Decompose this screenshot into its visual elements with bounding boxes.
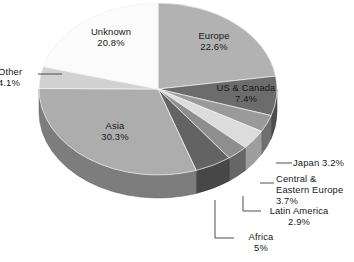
slice-label-other-percent: 4.1%: [0, 77, 42, 88]
leader-line-latin-america: [243, 196, 261, 211]
slice-label-europe-percent: 22.6%: [182, 41, 246, 52]
slice-label-latin-america-percent: 2.9%: [262, 216, 336, 227]
slice-label-latin-america-name: Latin America: [262, 205, 336, 216]
slice-label-us-canada-name: US & Canada: [205, 82, 287, 93]
slice-label-asia: Asia 30.3%: [86, 120, 144, 142]
pie-chart: Europe 22.6% Unknown 20.8% US & Canada 7…: [0, 0, 354, 262]
slice-label-japan-name: Japan: [293, 157, 319, 168]
slice-label-europe: Europe 22.6%: [182, 30, 246, 52]
slice-label-unknown-percent: 20.8%: [78, 37, 144, 48]
slice-label-us-canada: US & Canada 7.4%: [205, 82, 287, 104]
slice-label-japan: Japan 3.2%: [293, 157, 353, 168]
slice-label-asia-name: Asia: [86, 120, 144, 131]
slice-label-japan-percent: 3.2%: [322, 157, 344, 168]
slice-label-us-canada-percent: 7.4%: [205, 93, 287, 104]
slice-label-other: Other 4.1%: [0, 66, 42, 88]
slice-label-central-eastern-europe-name-line1: Central &: [276, 173, 354, 184]
slice-label-unknown: Unknown 20.8%: [78, 26, 144, 48]
slice-label-africa: Africa 5%: [236, 231, 286, 253]
slice-label-europe-name: Europe: [182, 30, 246, 41]
slice-label-asia-percent: 30.3%: [86, 131, 144, 142]
slice-label-central-eastern-europe: Central & Eastern Europe 3.7%: [276, 173, 354, 207]
slice-label-other-name: Other: [0, 66, 42, 77]
leader-line-africa: [215, 200, 234, 238]
slice-label-africa-name: Africa: [236, 231, 286, 242]
slice-label-unknown-name: Unknown: [78, 26, 144, 37]
slice-label-latin-america: Latin America 2.9%: [262, 205, 336, 227]
slice-label-central-eastern-europe-name-line2: Eastern Europe: [276, 184, 354, 195]
slice-label-africa-percent: 5%: [236, 242, 286, 253]
